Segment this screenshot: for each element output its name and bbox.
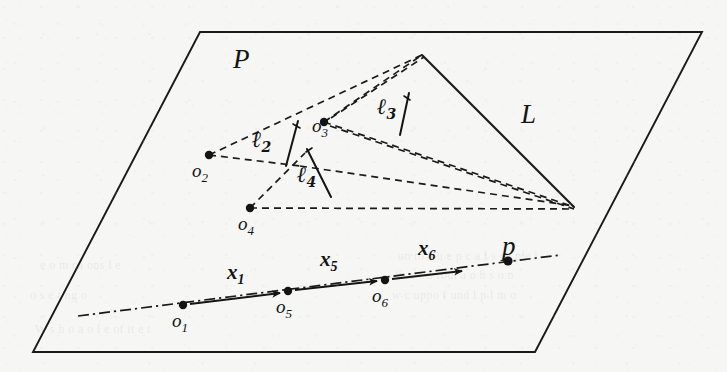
geometric-diagram-figure: on to c u e p c a l s co ple l th a e o … [0, 0, 727, 372]
dot-o1 [179, 301, 187, 309]
dot-o4 [246, 204, 254, 212]
origin-label-o3: o3 [312, 116, 328, 139]
origin-subscript: 6 [382, 295, 389, 310]
ell2-tick [286, 121, 298, 166]
ell-base: ℓ [377, 93, 386, 119]
ell-subscript: 2 [261, 139, 271, 155]
origin-base: o [276, 296, 286, 317]
line-L-label: L [521, 101, 536, 128]
ell-subscript: 4 [306, 174, 316, 190]
vector-subscript: 5 [331, 259, 338, 274]
vector-label-x5: x5 [320, 249, 338, 274]
origin-subscript: 5 [286, 306, 293, 321]
origin-subscript: 4 [248, 223, 255, 238]
point-p-label: p [502, 233, 516, 260]
vector-base: x [227, 260, 238, 284]
origin-base: o [372, 285, 382, 306]
origin-label-o4: o4 [238, 214, 254, 237]
vector-x1-arrow [190, 293, 280, 304]
dot-o5 [284, 287, 292, 295]
ell-label-l3: ℓ3 [377, 95, 396, 121]
vector-x5-arrow [295, 281, 377, 290]
vector-base: x [320, 247, 331, 271]
origin-label-o1: o1 [172, 311, 188, 334]
ell-base: ℓ [297, 161, 306, 187]
ell-label-l2: ℓ2 [252, 128, 271, 154]
dot-o6 [381, 276, 389, 284]
vector-label-x1: x1 [227, 262, 245, 287]
ell-subscript: 3 [386, 106, 396, 122]
origin-base: o [172, 310, 182, 331]
origin-base: o [238, 213, 248, 234]
vector-subscript: 6 [429, 248, 436, 263]
dash-dot-line [78, 255, 560, 316]
plane-label: P [233, 46, 250, 73]
origin-subscript: 2 [202, 170, 209, 185]
vector-base: x [418, 236, 429, 260]
origin-base: o [192, 160, 202, 181]
origin-label-o5: o5 [276, 297, 292, 320]
origin-label-o2: o2 [192, 161, 208, 184]
origin-label-o6: o6 [372, 286, 388, 309]
ell-label-l4: ℓ4 [297, 163, 316, 189]
dashed-pencil-o3 [324, 55, 574, 209]
plane-outline [33, 32, 702, 352]
diagram-canvas [0, 0, 727, 372]
origin-base: o [312, 115, 322, 136]
vector-subscript: 1 [238, 272, 245, 287]
vector-label-x6: x6 [418, 238, 436, 263]
origin-subscript: 3 [322, 125, 329, 140]
origin-subscript: 1 [182, 320, 189, 335]
dot-o2 [205, 151, 213, 159]
ell-base: ℓ [252, 126, 261, 152]
line-L-stroke [422, 55, 574, 207]
